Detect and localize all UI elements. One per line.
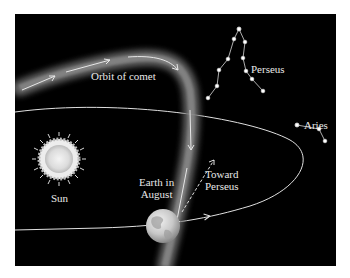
- earth-label-line1: Earth in: [139, 176, 174, 188]
- aries-label: Aries: [304, 119, 328, 131]
- sun: [32, 132, 86, 186]
- earth-label-line2: August: [139, 188, 174, 200]
- toward-label-line1: Toward: [205, 168, 239, 180]
- orbit-of-comet-label: Orbit of comet: [91, 70, 156, 82]
- toward-label-line2: Perseus: [205, 180, 239, 192]
- earth-in-august-label: Earth in August: [139, 176, 174, 200]
- perseus-label: Perseus: [251, 63, 285, 75]
- diagram-artwork: [15, 14, 336, 266]
- diagram-panel: Orbit of comet Perseus Aries Sun Earth i…: [15, 14, 336, 266]
- earth: [146, 209, 180, 243]
- sun-label: Sun: [51, 192, 68, 204]
- toward-perseus-label: Toward Perseus: [205, 168, 239, 192]
